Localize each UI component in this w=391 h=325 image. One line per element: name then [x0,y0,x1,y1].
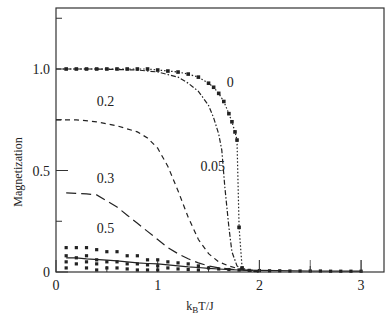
sample-marker [278,269,281,272]
sample-marker [65,260,68,263]
sample-marker [105,250,108,253]
data-point-marker [237,226,241,230]
x-tick-label: 3 [358,278,365,293]
data-point-marker [217,92,221,96]
sample-marker [136,268,139,271]
series-0-line [66,69,259,272]
y-axis-title: Magnetization [11,137,25,206]
sample-marker [65,266,68,269]
data-point-marker [176,70,180,74]
sample-marker [237,268,240,271]
sample-marker [187,262,190,265]
sample-marker [75,246,78,249]
sample-marker [146,263,149,266]
curve-label: 0.2 [97,94,115,109]
series-0-5-line [66,258,361,271]
sample-marker [95,258,98,261]
sample-marker [85,254,88,257]
y-axis-ticks: 00.51.0 [33,18,69,280]
sample-marker [105,266,108,269]
x-tick-label: 0 [53,278,60,293]
sample-marker [248,269,251,272]
sample-marker [156,258,159,261]
data-point-marker [230,120,234,124]
sample-marker [166,266,169,269]
sample-marker [115,250,118,253]
sample-marker [75,256,78,259]
curve-label: 0.3 [97,171,115,186]
sample-marker [339,270,342,273]
data-point-marker [235,138,239,142]
sample-marker [146,268,149,271]
sample-marker [136,254,139,257]
sample-marker [85,246,88,249]
sample-marker [349,270,352,273]
sample-marker [156,268,159,271]
curve-label: 0.5 [97,221,115,236]
sample-marker [329,270,332,273]
sample-marker [217,267,220,270]
data-point-marker [166,69,170,73]
x-axis-title: kBT/J [186,299,214,315]
data-point-marker [156,68,160,72]
y-tick-label: 0.5 [33,164,51,179]
sample-marker [227,268,230,271]
series-0-05-line [56,69,259,272]
sample-marker [95,262,98,265]
sample-marker [115,266,118,269]
sample-marker [319,269,322,272]
sample-marker [197,264,200,267]
sample-marker [126,267,129,270]
sample-marker [85,266,88,269]
sample-marker [65,254,68,257]
sample-marker [298,269,301,272]
sample-marker [65,246,68,249]
data-point-marker [197,75,201,79]
x-tick-label: 1 [154,278,161,293]
magnetization-chart: 00.51.0 0123 00.20.050.30.5 Magnetizatio… [0,0,391,325]
sample-marker [176,267,179,270]
sample-marker [176,261,179,264]
sample-marker [115,260,118,263]
sample-marker [156,264,159,267]
sample-marker [126,262,129,265]
x-tick-label: 2 [256,278,263,293]
data-point-marker [207,81,211,85]
sample-marker [197,268,200,271]
data-point-marker [212,85,216,89]
data-point-marker [146,67,150,71]
x-axis-ticks: 0123 [53,260,365,293]
sample-marker [146,258,149,261]
sample-marker [95,268,98,271]
data-point-marker [233,130,237,134]
data-point-marker [227,112,231,116]
y-tick-label: 1.0 [33,62,51,77]
curve-label: 0 [227,75,234,90]
sample-marker [85,260,88,263]
sample-marker [207,266,210,269]
sample-marker [136,262,139,265]
sample-marker [288,269,291,272]
data-point-marker [186,72,190,76]
sample-marker [187,268,190,271]
data-point-marker [222,100,226,104]
sample-marker [105,260,108,263]
curve-labels: 00.20.050.30.5 [97,75,234,236]
sample-marker [268,269,271,272]
sample-marker [75,262,78,265]
sample-marker [126,254,129,257]
y-tick-label: 0 [43,265,50,280]
sample-marker [166,260,169,263]
curve-label: 0.05 [200,159,225,174]
sample-marker [95,248,98,251]
